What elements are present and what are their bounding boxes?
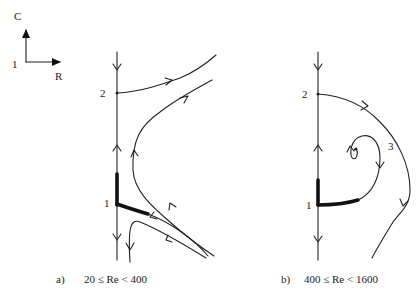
panel-a-arrow-lower-down	[126, 243, 134, 250]
c-axis-label: C	[14, 10, 21, 22]
panel-b-node-3	[355, 148, 358, 151]
panel-a-streamline-from-2	[117, 55, 216, 93]
panel-a-caption-condition: 20 ≤ Re < 400	[84, 273, 147, 285]
panel-a-caption-prefix: a)	[56, 273, 65, 286]
panel-b-label-1: 1	[306, 199, 312, 211]
panel-b-caption-prefix: b)	[281, 273, 291, 286]
panel-a-arrow-outer-left	[131, 150, 138, 157]
panel-b-separatrix-horizontal	[318, 200, 358, 205]
panel-a: 2 1	[100, 52, 216, 262]
panel-b-label-3: 3	[388, 140, 394, 152]
panel-a-label-1: 1	[104, 197, 110, 209]
flow-topology-diagram: C R 1 2 1	[0, 0, 418, 293]
panel-b-label-2: 2	[302, 88, 308, 100]
panel-a-arrow-outer-lower	[169, 203, 176, 210]
panel-b-outer-streamline	[318, 94, 410, 258]
r-axis-label: R	[55, 70, 63, 82]
panel-b-caption-condition: 400 ≤ Re < 1600	[304, 273, 378, 285]
panel-b: 2 1 3	[302, 52, 410, 260]
coordinate-legend: C R 1	[12, 10, 63, 82]
panel-a-label-2: 2	[100, 87, 106, 99]
panel-a-outer-streamline	[133, 80, 214, 256]
panel-b-spiral-streamline	[351, 136, 380, 200]
origin-label: 1	[12, 58, 18, 70]
panel-a-arrow-into-1	[150, 212, 157, 219]
panel-a-separatrix-diagonal	[117, 204, 148, 214]
panel-a-streamline-into-1	[148, 214, 208, 256]
